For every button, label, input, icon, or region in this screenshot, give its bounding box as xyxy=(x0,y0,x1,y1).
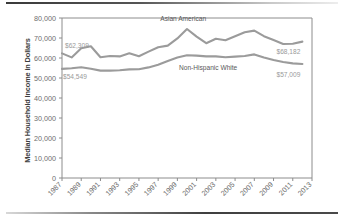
bottom-divider xyxy=(6,212,338,214)
x-tick-label: 2013 xyxy=(296,180,314,198)
y-tick-label: 70,000 xyxy=(34,34,56,43)
chart-figure: Median Household Income in Dollars 80,00… xyxy=(0,0,344,220)
line-chart-svg: 80,00070,00060,00050,00040,00030,00020,0… xyxy=(0,0,344,220)
x-tick-label: 1997 xyxy=(142,180,160,198)
data-line-asian-american xyxy=(62,29,302,57)
y-axis-tick-group: 80,00070,00060,00050,00040,00030,00020,0… xyxy=(34,14,62,183)
x-tick-label: 2011 xyxy=(277,180,294,197)
y-tick-label: 10,000 xyxy=(34,154,56,163)
asian-american-start: $62,309 xyxy=(65,42,89,49)
non-hispanic-white-end: $57,009 xyxy=(277,71,301,78)
x-tick-label: 2007 xyxy=(238,180,256,198)
x-tick-label: 2003 xyxy=(200,180,218,198)
y-tick-label: 30,000 xyxy=(34,114,56,123)
plot-frame xyxy=(62,18,312,178)
x-tick-label: 1999 xyxy=(161,180,179,198)
x-tick-label: 1991 xyxy=(84,180,102,198)
x-tick-label: 1993 xyxy=(103,180,121,198)
y-tick-label: 40,000 xyxy=(34,94,56,103)
x-tick-label: 2005 xyxy=(219,180,237,198)
x-tick-label: 1987 xyxy=(46,180,64,198)
x-tick-label: 2001 xyxy=(180,180,198,198)
x-tick-label: 2009 xyxy=(257,180,275,198)
asian-american-end: $68,182 xyxy=(277,48,301,55)
x-axis-tick-group: 1987198919911993199519971999200120032005… xyxy=(46,178,314,198)
non-hispanic-white-series-label: Non-Hispanic White xyxy=(179,64,238,72)
non-hispanic-white-start: $54,549 xyxy=(63,73,87,80)
y-tick-label: 50,000 xyxy=(34,74,56,83)
y-tick-label: 60,000 xyxy=(34,54,56,63)
y-axis-title: Median Household Income in Dollars xyxy=(23,16,32,186)
x-tick-label: 1995 xyxy=(123,180,141,198)
top-divider xyxy=(6,2,338,4)
y-tick-label: 20,000 xyxy=(34,134,56,143)
y-tick-label: 80,000 xyxy=(34,14,56,23)
asian-american-series-label: Asian American xyxy=(160,15,206,22)
x-tick-label: 1989 xyxy=(65,180,83,198)
